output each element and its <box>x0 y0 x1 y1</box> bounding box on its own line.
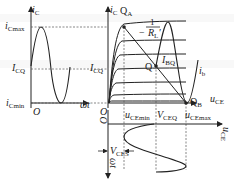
ic-sine-wave <box>31 27 70 103</box>
right-y-axis-label: iC <box>110 5 117 17</box>
bottom-time-axis-label: ωt <box>108 158 118 168</box>
label-qb: QB <box>190 97 202 109</box>
label-icmin: iCmin <box>6 98 24 110</box>
label-icq-right: ICQ <box>90 63 103 75</box>
left-panel <box>31 7 108 108</box>
slope-minus: − <box>139 28 145 38</box>
bottom-origin-label: O <box>98 116 108 123</box>
left-x-axis-label: ωt <box>80 100 90 110</box>
point-qa <box>122 25 126 29</box>
label-ibq: IBQ <box>162 55 175 67</box>
right-x-axis-label: uCE <box>210 94 224 106</box>
label-q: Q <box>145 62 152 72</box>
uce-sine-wave <box>124 124 186 172</box>
slope-numerator: 1 <box>150 18 155 27</box>
label-ucemin: uCEmin <box>125 110 150 122</box>
label-icmax: iCmax <box>5 21 25 33</box>
label-icq-left: ICQ <box>12 63 25 75</box>
label-vceq: VCEQ <box>157 110 177 122</box>
label-ucemax: uCEmax <box>185 110 211 122</box>
point-qb <box>184 101 188 105</box>
slope-denominator: RL′ <box>148 28 161 40</box>
label-vces: VCES <box>110 146 129 158</box>
bottom-x-axis-label: uCE <box>219 127 231 141</box>
left-origin-label: O <box>33 107 40 117</box>
label-ib: ib <box>199 66 205 78</box>
point-q <box>154 64 158 68</box>
left-y-axis-label: iC <box>32 5 39 17</box>
label-qa: QA <box>120 6 132 18</box>
